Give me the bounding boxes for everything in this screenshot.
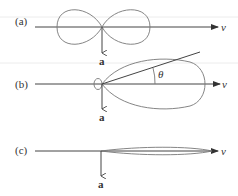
acceleration-label: a (99, 55, 105, 67)
theta-ray (102, 52, 200, 84)
panel-c: (c) v a (15, 144, 226, 190)
panel-label: (a) (15, 15, 28, 28)
velocity-label: v (221, 145, 226, 157)
radiation-pattern-diagram: (a) v a (b) v θ a (c) v a (0, 0, 238, 196)
panel-label: (c) (15, 144, 28, 157)
acceleration-label: a (99, 111, 105, 123)
velocity-label: v (221, 21, 226, 33)
panel-label: (b) (15, 78, 28, 91)
acceleration-label: a (98, 178, 104, 190)
velocity-label: v (222, 78, 227, 90)
theta-label: θ (158, 68, 164, 80)
angle-arc (153, 68, 155, 84)
panel-a: (a) v a (15, 10, 226, 67)
